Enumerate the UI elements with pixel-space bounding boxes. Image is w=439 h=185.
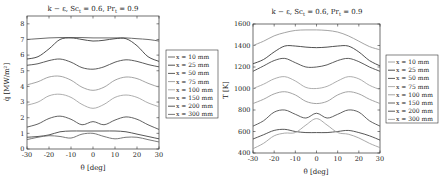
curves	[253, 30, 380, 149]
x-tick-label: 30	[155, 151, 163, 159]
legend: x = 10 mmx = 25 mmx = 50 mmx = 75 mmx = …	[166, 50, 218, 118]
legend: x = 10 mmx = 25 mmx = 50 mmx = 75 mmx = …	[386, 55, 438, 123]
series-line	[253, 30, 380, 50]
heat-flux-plot: k − ε, Sct = 0.6, Prt = 0.9 012345678 -3…	[3, 5, 218, 172]
x-tick-label: -30	[248, 155, 258, 163]
y-axis-label: q̇ [MW/m²]	[3, 63, 11, 102]
temperature-plot: k − ε, Sct = 0.6, Prt = 0.9 400600800100…	[222, 8, 438, 176]
series-line	[27, 59, 159, 69]
x-tick-label: 0	[91, 151, 95, 159]
x-tick-label: 20	[133, 151, 141, 159]
series-line	[253, 119, 380, 149]
y-tick-label: 1600	[234, 20, 251, 28]
series-line	[27, 94, 159, 108]
legend-entry: x = 100 mm	[396, 91, 433, 98]
x-tick-label: 20	[355, 155, 363, 163]
y-tick-label: 1200	[234, 63, 251, 71]
legend-entry: x = 100 mm	[176, 86, 213, 93]
y-tick-label: 7	[20, 36, 24, 44]
x-axis-label: θ [deg]	[80, 164, 105, 172]
legend-entry: x = 75 mm	[176, 78, 209, 85]
legend-entry: x = 50 mm	[396, 74, 429, 81]
x-tick-label: -10	[290, 155, 300, 163]
legend-entry: x = 25 mm	[176, 61, 209, 68]
x-axis: -30-20-100102030	[248, 24, 384, 163]
legend-entry: x = 200 mm	[396, 107, 433, 114]
series-line	[27, 116, 159, 129]
legend-entry: x = 300 mm	[396, 115, 433, 122]
x-tick-label: 30	[376, 155, 384, 163]
series-line	[253, 77, 380, 90]
y-tick-label: 6	[20, 51, 24, 59]
series-line	[27, 38, 159, 41]
y-tick-label: 3	[20, 98, 24, 106]
x-tick-label: -30	[22, 151, 32, 159]
series-line	[253, 110, 380, 126]
x-tick-label: 0	[314, 155, 318, 163]
legend-entry: x = 10 mm	[396, 58, 429, 65]
series-line	[27, 38, 159, 61]
y-tick-label: 2	[20, 114, 24, 122]
x-tick-label: -20	[44, 151, 54, 159]
legend-entry: x = 25 mm	[396, 66, 429, 73]
y-axis-label: T [K]	[222, 81, 230, 99]
plot-title: k − ε, Sct = 0.6, Prt = 0.9	[48, 5, 139, 14]
series-line	[27, 76, 159, 90]
legend-entry: x = 10 mm	[176, 53, 209, 60]
y-tick-label: 600	[238, 128, 250, 136]
series-line	[253, 92, 380, 104]
legend-entry: x = 150 mm	[176, 94, 213, 101]
figure: k − ε, Sct = 0.6, Prt = 0.9 012345678 -3…	[0, 0, 439, 185]
y-tick-label: 5	[20, 67, 24, 75]
y-tick-label: 1000	[234, 85, 251, 93]
y-tick-label: 800	[238, 106, 250, 114]
y-tick-label: 1	[20, 130, 24, 138]
legend-entry: x = 300 mm	[176, 110, 213, 117]
curves	[27, 38, 159, 142]
legend-entry: x = 200 mm	[176, 102, 213, 109]
x-tick-label: 10	[111, 151, 119, 159]
x-tick-label: -10	[66, 151, 76, 159]
plot-title: k − ε, Sct = 0.6, Prt = 0.9	[272, 8, 363, 17]
legend-entry: x = 75 mm	[396, 83, 429, 90]
y-tick-label: 8	[20, 20, 24, 28]
x-tick-label: 10	[334, 155, 342, 163]
series-line	[253, 58, 380, 71]
y-tick-label: 1400	[234, 42, 251, 50]
legend-entry: x = 50 mm	[176, 69, 209, 76]
legend-entry: x = 150 mm	[396, 99, 433, 106]
plot-frame	[27, 16, 159, 149]
y-tick-label: 4	[20, 83, 24, 91]
x-tick-label: -20	[269, 155, 279, 163]
x-axis-label: θ [deg]	[303, 168, 328, 176]
